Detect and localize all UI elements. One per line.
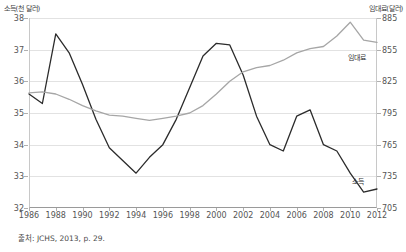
left-axis-tick-labels: 32333435363738 xyxy=(0,18,24,208)
left-axis-tickmark xyxy=(24,208,28,209)
right-axis-tick-label: 765 xyxy=(382,140,397,149)
x-axis-tick-label: 1988 xyxy=(46,211,66,220)
x-axis-tick-label: 1994 xyxy=(126,211,146,220)
series-label-임대료: 임대료 xyxy=(348,52,366,62)
left-axis-tickmark xyxy=(24,113,28,114)
left-axis-title: 소득(천 달러) xyxy=(4,3,40,13)
right-axis-tick-labels: 705735765795825855885 xyxy=(382,18,406,208)
x-axis-tick-label: 2002 xyxy=(233,211,253,220)
right-axis-tick-label: 855 xyxy=(382,45,397,54)
right-axis-tickmark xyxy=(377,208,381,209)
left-axis-tickmark xyxy=(24,81,28,82)
right-axis-tick-label: 885 xyxy=(382,14,397,23)
right-axis-tickmark xyxy=(377,113,381,114)
left-axis-tick-label: 34 xyxy=(4,140,24,149)
x-axis-tick-label: 2008 xyxy=(313,211,333,220)
right-axis-tick-label: 825 xyxy=(382,77,397,86)
left-axis-tick-label: 35 xyxy=(4,109,24,118)
series-label-소득: 소득 xyxy=(352,176,364,186)
right-axis-tick-label: 735 xyxy=(382,172,397,181)
x-axis-tick-label: 2012 xyxy=(367,211,387,220)
left-axis-tick-label: 38 xyxy=(4,14,24,23)
x-axis-tick-label: 1996 xyxy=(153,211,173,220)
right-axis-tickmark xyxy=(377,176,381,177)
series-line-소득 xyxy=(29,34,377,192)
right-axis-tickmark xyxy=(377,50,381,51)
x-axis-tick-label: 2006 xyxy=(287,211,307,220)
x-axis-tick-label: 1986 xyxy=(19,211,39,220)
x-axis-tick-label: 1992 xyxy=(99,211,119,220)
x-axis-tick-label: 2000 xyxy=(206,211,226,220)
left-axis-tickmark xyxy=(24,18,28,19)
x-axis-tick-label: 1998 xyxy=(179,211,199,220)
right-axis-tickmark xyxy=(377,81,381,82)
left-axis-tick-label: 36 xyxy=(4,77,24,86)
right-axis-title: 임대료(달러) xyxy=(369,3,403,13)
x-axis-tick-label: 2010 xyxy=(340,211,360,220)
left-axis-tickmark xyxy=(24,145,28,146)
x-axis-tick-label: 2004 xyxy=(260,211,280,220)
left-axis-tick-label: 33 xyxy=(4,172,24,181)
plot-area xyxy=(29,18,377,208)
left-axis-tick-label: 37 xyxy=(4,45,24,54)
chart-container: 소득(천 달러) 임대료(달러) 32333435363738 70573576… xyxy=(0,0,406,252)
right-axis-tickmark xyxy=(377,18,381,19)
left-axis-tickmark xyxy=(24,176,28,177)
x-axis-tick-labels: 1986198819901992199419961998200020022004… xyxy=(29,211,377,225)
right-axis-tick-label: 795 xyxy=(382,109,397,118)
series-lines xyxy=(29,18,377,208)
source-note: 출처: JCHS, 2013, p. 29. xyxy=(18,232,105,243)
right-axis-tickmark xyxy=(377,145,381,146)
x-axis-tick-label: 1990 xyxy=(72,211,92,220)
series-line-임대료 xyxy=(29,22,377,120)
left-axis-tickmark xyxy=(24,50,28,51)
